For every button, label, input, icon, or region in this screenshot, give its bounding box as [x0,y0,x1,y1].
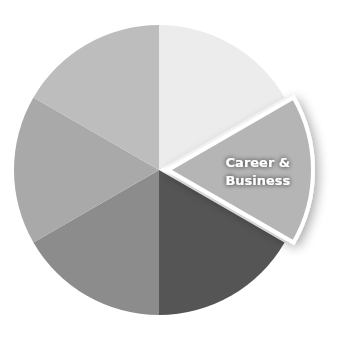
pie-chart: Career &Business [0,0,340,345]
